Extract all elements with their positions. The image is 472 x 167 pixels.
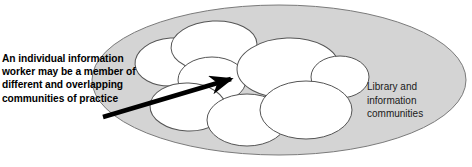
caption-library-and-information-communities: Library and information communities — [367, 80, 462, 121]
community-of-practice-ellipse-8 — [260, 81, 352, 139]
diagram-canvas: An individual information worker may be … — [0, 0, 472, 167]
caption-individual-worker: An individual information worker may be … — [2, 52, 154, 105]
